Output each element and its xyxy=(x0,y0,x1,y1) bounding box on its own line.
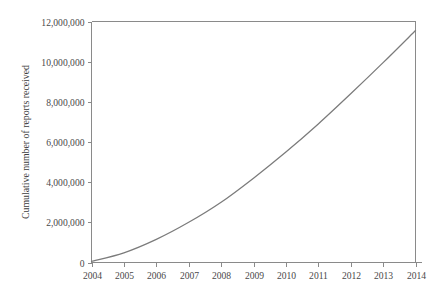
x-tick-label: 2014 xyxy=(407,270,426,281)
y-tick-label: 8,000,000 xyxy=(46,97,85,108)
y-axis-title: Cumulative number of reports received xyxy=(20,65,31,219)
x-tick-label: 2013 xyxy=(374,270,393,281)
x-tick-label: 2008 xyxy=(212,270,231,281)
x-tick-label: 2007 xyxy=(180,270,199,281)
y-tick-label: 2,000,000 xyxy=(46,217,85,228)
x-tick-label: 2010 xyxy=(277,270,296,281)
chart-background xyxy=(0,0,441,301)
y-tick-label: 10,000,000 xyxy=(41,57,84,68)
y-tick-label: 6,000,000 xyxy=(46,137,85,148)
chart-figure: 02,000,0004,000,0006,000,0008,000,00010,… xyxy=(0,0,441,301)
line-chart: 02,000,0004,000,0006,000,0008,000,00010,… xyxy=(0,0,441,301)
y-tick-label: 12,000,000 xyxy=(41,17,84,28)
y-tick-label: 4,000,000 xyxy=(46,177,85,188)
x-tick-label: 2012 xyxy=(342,270,361,281)
x-tick-label: 2011 xyxy=(309,270,328,281)
x-tick-label: 2005 xyxy=(115,270,134,281)
x-tick-label: 2006 xyxy=(147,270,166,281)
x-tick-label: 2004 xyxy=(83,270,102,281)
y-tick-label: 0 xyxy=(80,258,85,269)
x-tick-label: 2009 xyxy=(245,270,264,281)
